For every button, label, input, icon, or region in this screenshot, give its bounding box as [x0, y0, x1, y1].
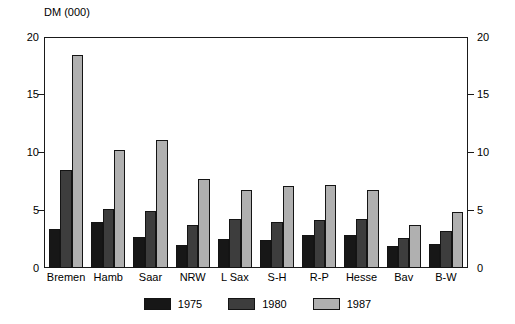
- legend-label: 1975: [178, 298, 202, 310]
- legend-swatch: [144, 298, 171, 310]
- x-axis-label: NRW: [172, 270, 214, 284]
- bar: [283, 186, 294, 268]
- bar: [133, 237, 144, 268]
- y-axis-tick-label-right: 0: [477, 263, 483, 274]
- bar: [218, 239, 229, 268]
- x-axis-label: R-P: [298, 270, 340, 284]
- bar-group: [176, 38, 210, 268]
- bar: [156, 140, 167, 268]
- bar: [103, 209, 114, 268]
- bar: [409, 225, 420, 268]
- y-axis-tick-right: [468, 94, 474, 95]
- legend-label: 1987: [347, 298, 371, 310]
- bar: [356, 219, 367, 268]
- bar: [145, 211, 156, 269]
- bar: [114, 150, 125, 268]
- y-axis-tick-label-left: 20: [27, 32, 39, 43]
- bar: [302, 235, 313, 268]
- x-axis-label: Saar: [129, 270, 171, 284]
- bar: [91, 222, 102, 268]
- bar-group: [260, 38, 294, 268]
- bar-group: [218, 38, 252, 268]
- legend-item: 1975: [144, 298, 202, 310]
- x-axis-label: Hesse: [340, 270, 382, 284]
- x-axis-label: Bremen: [45, 270, 87, 284]
- bar: [241, 190, 252, 268]
- y-axis-tick-label-left: 5: [33, 205, 39, 216]
- y-axis-tick-label-left: 10: [27, 147, 39, 158]
- bars-layer: [45, 38, 467, 268]
- bar: [452, 212, 463, 268]
- chart-legend: 197519801987: [0, 294, 515, 314]
- y-axis-tick-right: [468, 152, 474, 153]
- legend-label: 1980: [262, 298, 286, 310]
- bar: [229, 219, 240, 268]
- legend-swatch: [228, 298, 255, 310]
- bar: [187, 225, 198, 268]
- bar-group: [387, 38, 421, 268]
- bar: [60, 170, 71, 268]
- x-axis-label: L Sax: [214, 270, 256, 284]
- x-axis-label: S-H: [256, 270, 298, 284]
- bar: [314, 220, 325, 268]
- y-axis-title: DM (000): [44, 6, 90, 19]
- bar: [367, 190, 378, 268]
- x-axis-label: Hamb: [87, 270, 129, 284]
- legend-swatch: [313, 298, 340, 310]
- y-axis-tick-right: [468, 210, 474, 211]
- bar: [49, 229, 60, 268]
- bar-group: [49, 38, 83, 268]
- bar-group: [91, 38, 125, 268]
- y-axis-tick-label-right: 10: [477, 147, 489, 158]
- legend-item: 1980: [228, 298, 286, 310]
- bar-group: [133, 38, 167, 268]
- bar-chart: DM (000) 0055101015152020 BremenHambSaar…: [0, 0, 515, 324]
- y-axis-tick-label-right: 5: [477, 205, 483, 216]
- bar: [198, 179, 209, 268]
- bar: [429, 244, 440, 268]
- bar-group: [344, 38, 378, 268]
- bar: [440, 231, 451, 268]
- legend-item: 1987: [313, 298, 371, 310]
- x-axis-labels: BremenHambSaarNRWL SaxS-HR-PHesseBavB-W: [45, 270, 467, 286]
- bar: [260, 240, 271, 268]
- bar: [271, 222, 282, 268]
- x-axis-label: B-W: [425, 270, 467, 284]
- bar-group: [302, 38, 336, 268]
- y-axis-tick-label-left: 15: [27, 89, 39, 100]
- y-axis-tick-label-right: 15: [477, 89, 489, 100]
- y-axis-tick-label-left: 0: [33, 263, 39, 274]
- bar: [325, 185, 336, 268]
- x-axis-label: Bav: [383, 270, 425, 284]
- bar: [398, 238, 409, 268]
- bar: [72, 55, 83, 268]
- bar: [344, 235, 355, 268]
- bar: [176, 245, 187, 268]
- bar-group: [429, 38, 463, 268]
- y-axis-tick-label-right: 20: [477, 32, 489, 43]
- bar: [387, 246, 398, 268]
